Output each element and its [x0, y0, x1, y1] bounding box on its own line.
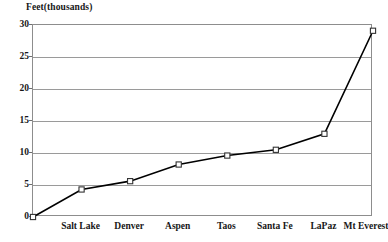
- x-tick-label-denver: Denver: [114, 221, 144, 231]
- x-tick-label-salt-lake: Salt Lake: [61, 221, 100, 231]
- y-axis-title: Feet(thousands): [26, 2, 92, 12]
- data-point-santa-fe: [273, 147, 278, 152]
- x-tick-label-taos: Taos: [217, 221, 236, 231]
- data-point-origin: [30, 214, 35, 219]
- y-tick-label-30: 30: [20, 19, 30, 29]
- data-series-elevation: [33, 25, 373, 217]
- y-tick-label-10: 10: [20, 147, 30, 157]
- x-tick-label-lapaz: LaPaz: [310, 221, 336, 231]
- data-point-mt-everest: [370, 28, 375, 33]
- line-chart: Feet(thousands) 051015202530 Salt LakeDe…: [0, 0, 388, 242]
- y-tick-label-15: 15: [20, 115, 30, 125]
- x-tick-label-aspen: Aspen: [165, 221, 190, 231]
- series-markers: [30, 28, 375, 219]
- data-point-denver: [128, 179, 133, 184]
- x-tick-label-mt-everest: Mt Everest: [344, 221, 388, 231]
- data-point-taos: [225, 153, 230, 158]
- y-tick-label-25: 25: [20, 51, 30, 61]
- plot-area: [32, 24, 372, 216]
- x-axis-tick-labels: Salt LakeDenverAspenTaosSanta FeLaPazMt …: [0, 221, 388, 242]
- x-tick-label-santa-fe: Santa Fe: [257, 221, 293, 231]
- y-tick-label-20: 20: [20, 83, 30, 93]
- data-point-salt-lake: [79, 187, 84, 192]
- data-point-aspen: [176, 162, 181, 167]
- y-axis-tick-labels: 051015202530: [0, 0, 29, 242]
- data-point-lapaz: [322, 131, 327, 136]
